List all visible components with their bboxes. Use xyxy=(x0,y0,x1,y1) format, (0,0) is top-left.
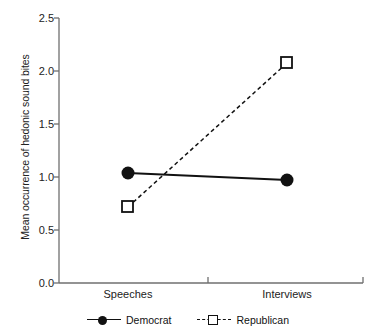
data-point-democrat-speeches xyxy=(122,167,135,180)
x-tick-label-interviews: Interviews xyxy=(250,288,324,300)
data-point-democrat-interviews xyxy=(281,174,294,187)
plot-canvas xyxy=(0,0,376,333)
legend-label-democrat: Democrat xyxy=(126,314,172,326)
legend-item-republican: Republican xyxy=(197,314,289,326)
series-line-democrat xyxy=(128,173,287,180)
data-point-republican-interviews xyxy=(281,57,292,68)
legend-marker-republican-icon xyxy=(197,314,231,326)
legend-label-republican: Republican xyxy=(236,314,289,326)
data-point-republican-speeches xyxy=(122,201,133,212)
series-line-republican xyxy=(128,63,287,207)
chart-figure: Mean occurrence of hedonic sound bites 2… xyxy=(0,0,376,333)
legend-item-democrat: Democrat xyxy=(87,314,172,326)
legend-marker-democrat-icon xyxy=(87,314,121,326)
chart-legend: Democrat Republican xyxy=(0,310,376,330)
x-tick-label-speeches: Speeches xyxy=(93,288,163,300)
